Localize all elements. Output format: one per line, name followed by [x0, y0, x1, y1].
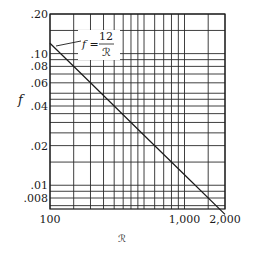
y-tick-label: .06: [31, 77, 49, 90]
annotation-denominator: ℛ: [102, 46, 111, 59]
y-axis-label: f: [17, 92, 25, 107]
annotation-leader-line: [56, 41, 81, 46]
y-tick-label: .02: [31, 140, 49, 153]
y-tick-label: .008: [24, 192, 49, 205]
y-tick-labels: .20.10.08.06.04.02.01.008: [24, 8, 49, 205]
y-tick-label: .20: [31, 8, 49, 21]
x-axis-label: ℛ: [118, 233, 126, 244]
x-tick-label: 1,000: [169, 213, 201, 226]
grid-lines: [50, 14, 225, 209]
chart: .20.10.08.06.04.02.01.008 1001,0002,000 …: [0, 0, 254, 253]
annotation-lhs: f =: [81, 38, 99, 51]
x-tick-label: 2,000: [209, 213, 241, 226]
y-tick-label: .01: [31, 179, 49, 192]
annotation-numerator: 12: [99, 30, 113, 43]
y-tick-label: .10: [31, 48, 49, 61]
y-tick-label: .08: [31, 60, 49, 73]
x-tick-label: 100: [40, 213, 61, 226]
x-tick-labels: 1001,0002,000: [40, 213, 241, 226]
y-tick-label: .04: [31, 100, 49, 113]
equation-annotation: f = 12 ℛ: [56, 30, 120, 60]
